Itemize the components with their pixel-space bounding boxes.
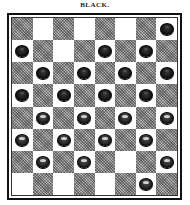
board-square-r4-c0[interactable] [12,107,33,129]
white-checker-piece[interactable] [139,178,153,190]
white-checker-piece[interactable] [36,156,50,168]
board-square-r0-c3[interactable] [74,18,95,40]
board-square-r6-c7[interactable] [156,151,177,173]
black-checker-piece[interactable] [36,67,50,79]
board-square-r7-c3[interactable] [74,173,95,195]
white-checker-piece[interactable] [77,112,91,124]
board-square-r7-c5[interactable] [115,173,136,195]
board-square-r1-c6[interactable] [136,40,157,62]
board-square-r7-c6[interactable] [136,173,157,195]
white-checker-piece[interactable] [57,134,71,146]
board-square-r4-c3[interactable] [74,107,95,129]
board-square-r6-c4[interactable] [95,151,116,173]
board-square-r7-c7[interactable] [156,173,177,195]
board-square-r6-c2[interactable] [53,151,74,173]
board-square-r1-c1[interactable] [33,40,54,62]
board-square-r5-c3[interactable] [74,129,95,151]
black-checker-piece[interactable] [160,67,174,79]
white-checker-piece[interactable] [160,156,174,168]
checkerboard-frame [7,13,182,200]
black-checker-piece[interactable] [98,89,112,101]
board-square-r6-c5[interactable] [115,151,136,173]
board-square-r3-c2[interactable] [53,84,74,106]
board-square-r5-c2[interactable] [53,129,74,151]
board-square-r6-c6[interactable] [136,151,157,173]
board-square-r1-c2[interactable] [53,40,74,62]
white-checker-piece[interactable] [160,112,174,124]
black-checker-piece[interactable] [118,67,132,79]
board-square-r2-c0[interactable] [12,62,33,84]
board-square-r2-c5[interactable] [115,62,136,84]
board-square-r4-c6[interactable] [136,107,157,129]
board-square-r7-c2[interactable] [53,173,74,195]
black-checker-piece[interactable] [139,45,153,57]
board-square-r4-c5[interactable] [115,107,136,129]
board-square-r5-c6[interactable] [136,129,157,151]
board-square-r6-c0[interactable] [12,151,33,173]
board-square-r3-c0[interactable] [12,84,33,106]
board-square-r6-c1[interactable] [33,151,54,173]
board-square-r7-c0[interactable] [12,173,33,195]
board-square-r4-c4[interactable] [95,107,116,129]
board-square-r0-c1[interactable] [33,18,54,40]
black-checker-piece[interactable] [98,45,112,57]
board-square-r3-c5[interactable] [115,84,136,106]
checkerboard [11,17,178,196]
board-square-r5-c5[interactable] [115,129,136,151]
board-square-r0-c6[interactable] [136,18,157,40]
board-square-r1-c7[interactable] [156,40,177,62]
board-square-r3-c3[interactable] [74,84,95,106]
board-square-r4-c1[interactable] [33,107,54,129]
board-square-r1-c3[interactable] [74,40,95,62]
board-title: BLACK. [0,1,190,9]
board-square-r5-c1[interactable] [33,129,54,151]
board-square-r7-c1[interactable] [33,173,54,195]
black-checker-piece[interactable] [57,89,71,101]
board-square-r0-c0[interactable] [12,18,33,40]
board-square-r1-c0[interactable] [12,40,33,62]
board-square-r2-c6[interactable] [136,62,157,84]
board-square-r1-c5[interactable] [115,40,136,62]
black-checker-piece[interactable] [139,89,153,101]
board-square-r0-c2[interactable] [53,18,74,40]
board-square-r4-c7[interactable] [156,107,177,129]
board-square-r0-c5[interactable] [115,18,136,40]
board-square-r2-c1[interactable] [33,62,54,84]
black-checker-piece[interactable] [15,89,29,101]
board-square-r5-c0[interactable] [12,129,33,151]
white-checker-piece[interactable] [15,134,29,146]
black-checker-piece[interactable] [15,45,29,57]
board-square-r6-c3[interactable] [74,151,95,173]
board-square-r2-c7[interactable] [156,62,177,84]
board-square-r1-c4[interactable] [95,40,116,62]
board-square-r2-c4[interactable] [95,62,116,84]
board-square-r3-c6[interactable] [136,84,157,106]
black-checker-piece[interactable] [160,23,174,35]
board-square-r4-c2[interactable] [53,107,74,129]
board-square-r2-c3[interactable] [74,62,95,84]
board-square-r3-c1[interactable] [33,84,54,106]
board-square-r5-c7[interactable] [156,129,177,151]
board-square-r0-c7[interactable] [156,18,177,40]
board-square-r3-c4[interactable] [95,84,116,106]
white-checker-piece[interactable] [98,134,112,146]
board-square-r5-c4[interactable] [95,129,116,151]
board-square-r2-c2[interactable] [53,62,74,84]
white-checker-piece[interactable] [36,112,50,124]
white-checker-piece[interactable] [77,156,91,168]
board-square-r7-c4[interactable] [95,173,116,195]
board-square-r0-c4[interactable] [95,18,116,40]
board-square-r3-c7[interactable] [156,84,177,106]
white-checker-piece[interactable] [118,112,132,124]
black-checker-piece[interactable] [77,67,91,79]
white-checker-piece[interactable] [139,134,153,146]
